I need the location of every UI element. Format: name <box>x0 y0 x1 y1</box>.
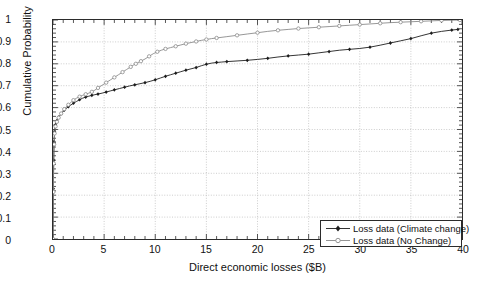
legend-item-no-change: Loss data (No Change) <box>325 235 458 247</box>
data-series-layer <box>53 20 462 239</box>
x-tick-label: 15 <box>200 243 212 255</box>
y-tick-label: 0.5 <box>0 124 11 136</box>
x-tick-label: 5 <box>100 243 106 255</box>
y-tick-label: 0.1 <box>0 212 11 224</box>
x-tick-label: 20 <box>252 243 264 255</box>
x-tick-label: 25 <box>303 243 315 255</box>
y-tick-label: 0.9 <box>0 35 11 47</box>
y-tick-label: 0.8 <box>0 57 11 69</box>
legend-item-climate-change: Loss data (Climate change) <box>325 223 458 235</box>
legend: Loss data (Climate change) Loss data (No… <box>320 220 462 247</box>
legend-label-no-change: Loss data (No Change) <box>353 235 451 246</box>
legend-swatch-climate-change <box>325 223 351 234</box>
y-axis-title: Cumulative Probability <box>21 0 33 151</box>
x-tick-label: 10 <box>149 243 161 255</box>
x-tick-label: 0 <box>49 243 55 255</box>
y-tick-label: 1 <box>5 13 11 25</box>
y-tick-label: 0 <box>5 234 11 246</box>
y-tick-label: 0.2 <box>0 190 11 202</box>
y-tick-label: 0.7 <box>0 79 11 91</box>
y-tick-label: 0.6 <box>0 101 11 113</box>
x-axis-title: Direct economic losses ($B) <box>52 261 463 273</box>
y-tick-label: 0.3 <box>0 168 11 180</box>
legend-swatch-no-change <box>325 235 351 246</box>
y-tick-label: 0.4 <box>0 146 11 158</box>
cdf-chart-figure: 00.10.20.30.40.50.60.70.80.91 0510152025… <box>0 0 477 292</box>
plot-area <box>52 19 463 240</box>
legend-label-climate-change: Loss data (Climate change) <box>353 223 469 234</box>
